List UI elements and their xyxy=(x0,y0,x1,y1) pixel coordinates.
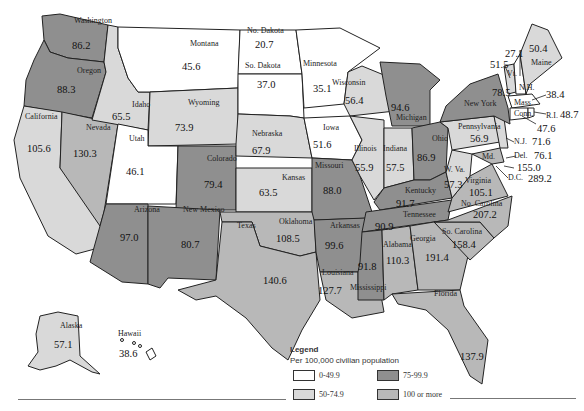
value-tennessee: 90.9 xyxy=(375,222,393,233)
label-arizona: Arizona xyxy=(134,206,160,214)
legend-subtitle: Per 100,000 civilian population xyxy=(290,356,530,365)
divider-right xyxy=(450,398,576,399)
value-rhode-island: 48.7 xyxy=(560,110,578,121)
value-louisiana: 127.7 xyxy=(318,286,342,297)
label-washington: Washington xyxy=(74,17,112,25)
label-massachusetts: Mass. xyxy=(514,99,533,107)
value-alaska: 57.1 xyxy=(54,340,72,351)
value-new-york: 78.5 xyxy=(492,88,510,99)
value-dc: 289.2 xyxy=(528,174,552,185)
label-pennsylvania: Pennsylvania xyxy=(458,123,501,131)
label-florida: Florida xyxy=(434,290,457,298)
label-idaho: Idaho xyxy=(132,101,150,109)
label-vermont: Vt. xyxy=(507,70,517,78)
legend-swatch-light xyxy=(293,389,315,400)
value-arkansas: 99.6 xyxy=(325,241,343,252)
label-new-jersey: N.J. xyxy=(514,138,527,146)
divider-left xyxy=(18,399,286,400)
value-west-virginia: 57.3 xyxy=(444,180,462,191)
legend-label: 0-49.9 xyxy=(319,371,340,380)
label-iowa: Iowa xyxy=(323,124,339,132)
label-virginia: Virginia xyxy=(465,177,491,185)
label-texas: Texas xyxy=(237,222,256,230)
state-wyoming xyxy=(148,88,238,146)
value-colorado: 79.4 xyxy=(204,180,222,191)
label-alabama: Alabama xyxy=(383,241,412,249)
value-hawaii: 38.6 xyxy=(119,349,137,360)
value-south-carolina: 158.4 xyxy=(452,240,476,251)
value-kansas: 63.5 xyxy=(259,188,277,199)
value-minnesota: 35.1 xyxy=(313,84,331,95)
label-north-dakota: No. Dakota xyxy=(247,27,284,35)
label-tennessee: Tennessee xyxy=(403,211,436,219)
label-alaska: Alaska xyxy=(60,322,82,330)
legend-item-0-49: 0-49.9 xyxy=(293,370,340,381)
value-north-dakota: 20.7 xyxy=(255,40,273,51)
value-oklahoma: 108.5 xyxy=(276,234,300,245)
label-minnesota: Minnesota xyxy=(303,60,337,68)
value-california: 105.6 xyxy=(27,144,51,155)
value-oregon: 88.3 xyxy=(57,85,75,96)
value-maryland: 155.0 xyxy=(517,163,541,174)
value-massachusetts: 38.4 xyxy=(546,90,564,101)
value-arizona: 97.0 xyxy=(120,233,138,244)
label-missouri: Missouri xyxy=(315,162,343,170)
value-maine: 50.4 xyxy=(529,44,547,55)
value-south-dakota: 37.0 xyxy=(257,80,275,91)
label-south-dakota: So. Dakota xyxy=(245,62,281,70)
state-indiana xyxy=(384,128,414,188)
hawaii-island-small xyxy=(139,345,142,348)
value-nebraska: 67.9 xyxy=(252,146,270,157)
label-ohio: Ohio xyxy=(432,135,448,143)
value-iowa: 51.6 xyxy=(313,140,331,151)
legend-swatch-dark xyxy=(377,370,399,381)
hawaii-island-small xyxy=(133,342,136,345)
label-hawaii: Hawaii xyxy=(118,330,141,338)
state-ohio xyxy=(412,122,448,180)
legend-swatch-medium xyxy=(377,389,399,400)
label-west-virginia: W. Va. xyxy=(444,166,465,174)
value-illinois: 55.9 xyxy=(355,163,373,174)
value-ohio: 86.9 xyxy=(417,153,435,164)
value-alabama: 110.3 xyxy=(386,256,409,267)
legend-label: 75-99.9 xyxy=(403,371,428,380)
value-nevada: 130.3 xyxy=(73,149,97,160)
label-wyoming: Wyoming xyxy=(188,99,220,107)
label-south-carolina: So. Carolina xyxy=(442,228,482,236)
label-maine: Maine xyxy=(531,59,551,67)
label-oregon: Oregon xyxy=(77,67,101,75)
leader-line-md xyxy=(504,166,514,168)
value-kentucky: 91.7 xyxy=(396,199,414,210)
label-colorado: Colorado xyxy=(207,155,237,163)
value-michigan: 94.6 xyxy=(391,103,409,114)
label-louisiana: Louisiana xyxy=(322,269,354,277)
label-mississippi: Mississippi xyxy=(350,284,386,292)
label-connecticut: Conn. xyxy=(514,110,533,118)
value-new-jersey: 71.6 xyxy=(532,137,550,148)
state-hawaii xyxy=(146,348,156,360)
value-north-carolina: 207.2 xyxy=(473,210,497,221)
label-dc: D.C. xyxy=(508,174,523,182)
label-michigan: Michigan xyxy=(396,114,427,122)
value-missouri: 88.0 xyxy=(323,186,341,197)
label-georgia: Georgia xyxy=(410,235,436,243)
label-north-carolina: No. Carolina xyxy=(461,200,502,208)
value-virginia: 105.1 xyxy=(469,188,493,199)
value-montana: 45.6 xyxy=(182,62,200,73)
label-maryland: Md. xyxy=(482,153,495,161)
label-new-hampshire: N.H. xyxy=(519,84,535,92)
legend-title: Legend xyxy=(290,345,530,354)
label-delaware: Del. xyxy=(514,152,528,160)
leader-line-ri xyxy=(534,112,546,114)
legend: Legend Per 100,000 civilian population xyxy=(290,345,530,365)
label-montana: Montana xyxy=(190,40,218,48)
label-nebraska: Nebraska xyxy=(252,130,282,138)
value-new-mexico: 80.7 xyxy=(181,240,199,251)
value-new-hampshire: 27.1 xyxy=(505,49,523,60)
label-indiana: Indiana xyxy=(383,145,407,153)
value-texas: 140.6 xyxy=(263,276,287,287)
value-delaware: 76.1 xyxy=(534,151,552,162)
legend-item-75-99: 75-99.9 xyxy=(377,370,428,381)
legend-label: 50-74.9 xyxy=(319,390,344,399)
value-georgia: 191.4 xyxy=(425,253,449,264)
